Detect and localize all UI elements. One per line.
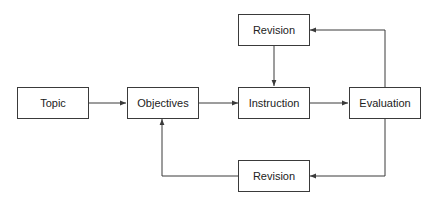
objectives-box: Objectives xyxy=(127,87,199,119)
objectives-label: Objectives xyxy=(137,97,188,109)
evaluation-label: Evaluation xyxy=(359,97,410,109)
revision-bottom-label: Revision xyxy=(253,170,295,182)
revision-top-label: Revision xyxy=(253,24,295,36)
edge-evaluation-revision-bottom xyxy=(310,118,385,176)
topic-label: Topic xyxy=(40,97,66,109)
edge-evaluation-revision-top xyxy=(310,30,385,87)
topic-box: Topic xyxy=(17,87,89,119)
revision-bottom-box: Revision xyxy=(238,160,310,192)
instruction-label: Instruction xyxy=(249,97,300,109)
instruction-box: Instruction xyxy=(238,87,310,119)
edge-revision-bottom-objectives xyxy=(162,119,238,176)
revision-top-box: Revision xyxy=(238,14,310,46)
evaluation-box: Evaluation xyxy=(349,87,421,119)
